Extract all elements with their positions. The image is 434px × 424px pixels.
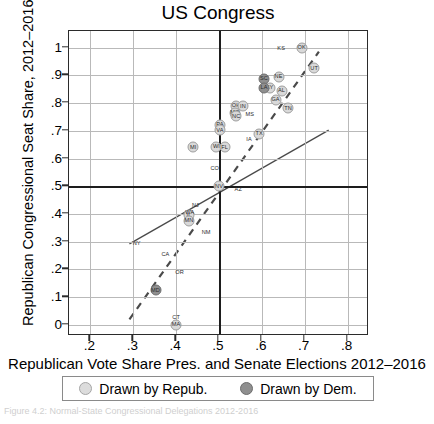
y-tick-label: .2 <box>22 261 62 276</box>
point-label-nm: NM <box>202 229 211 235</box>
y-tick-label: .3 <box>22 233 62 248</box>
gridline-horizontal <box>69 75 367 76</box>
point-label-mi: MI <box>190 144 196 150</box>
gridline-horizontal <box>69 242 367 243</box>
y-tick-mark <box>62 212 68 213</box>
point-label-ne: NE <box>275 73 283 79</box>
point-label-ks: KS <box>277 45 285 51</box>
point-label-tx: TX <box>256 130 263 136</box>
legend-marker-light-circle-icon <box>79 382 92 395</box>
point-label-fl: FL <box>221 144 228 150</box>
gridline-horizontal <box>69 48 367 49</box>
point-label-la: LA <box>260 84 267 90</box>
legend-label-dem: Drawn by Dem. <box>260 381 356 397</box>
point-label-ny: NY <box>133 240 141 246</box>
point-label-nv: NV <box>215 183 223 189</box>
y-tick-mark <box>62 295 68 296</box>
gridline-horizontal <box>69 325 367 326</box>
legend-marker-dark-circle-icon <box>240 382 253 395</box>
y-tick-mark <box>62 129 68 130</box>
figure-caption: Figure 4.2: Normal-State Congressional D… <box>4 406 424 416</box>
gridline-vertical <box>176 31 177 334</box>
y-tick-label: .7 <box>22 122 62 137</box>
x-tick-mark <box>217 335 218 341</box>
point-label-ms: MS <box>246 111 255 117</box>
y-tick-label: .4 <box>22 206 62 221</box>
point-label-ca: CA <box>161 251 169 257</box>
legend-item-repub[interactable]: Drawn by Repub. <box>79 381 207 397</box>
point-label-in: IN <box>240 103 246 109</box>
gridline-vertical <box>90 31 91 334</box>
chart-legend: Drawn by Repub. Drawn by Dem. <box>62 376 374 401</box>
y-tick-mark <box>62 185 68 186</box>
legend-label-repub: Drawn by Repub. <box>99 381 207 397</box>
gridline-horizontal <box>69 159 367 160</box>
y-tick-label: .9 <box>22 67 62 82</box>
x-tick-mark <box>89 335 90 341</box>
x-axis-label: Republican Vote Share Pres. and Senate E… <box>0 355 434 372</box>
y-tick-mark <box>62 323 68 324</box>
y-tick-mark <box>62 157 68 158</box>
point-label-or: OR <box>175 269 184 275</box>
point-label-ia: IA <box>246 136 252 142</box>
x-tick-mark <box>346 335 347 341</box>
point-label-wa: WA <box>185 209 194 215</box>
x-tick-mark <box>303 335 304 341</box>
point-label-tn: TN <box>284 105 292 111</box>
x-tick-mark <box>132 335 133 341</box>
x-tick-mark <box>174 335 175 341</box>
y-tick-mark <box>62 74 68 75</box>
point-label-va: VA <box>216 127 223 133</box>
point-label-md: MD <box>151 287 160 293</box>
y-tick-label: .6 <box>22 150 62 165</box>
point-label-ma: MA <box>172 321 181 327</box>
chart-figure: US Congress Republican Congressional Sea… <box>0 0 434 424</box>
y-tick-label: 0 <box>22 316 62 331</box>
gridline-horizontal <box>69 297 367 298</box>
point-label-ok: OK <box>298 44 306 50</box>
point-label-ga: GA <box>271 96 279 102</box>
y-tick-label: .8 <box>22 95 62 110</box>
y-tick-label: .5 <box>22 178 62 193</box>
point-label-az: AZ <box>235 186 242 192</box>
y-tick-mark <box>62 240 68 241</box>
y-tick-mark <box>62 268 68 269</box>
gridline-horizontal <box>69 214 367 215</box>
legend-item-dem[interactable]: Drawn by Dem. <box>240 381 356 397</box>
point-label-ct: CT <box>172 314 180 320</box>
y-tick-label: .1 <box>22 289 62 304</box>
point-label-ut: UT <box>310 65 318 71</box>
gridline-vertical <box>348 31 349 334</box>
point-label-nc: NC <box>232 113 240 119</box>
point-label-co: CO <box>210 165 219 171</box>
y-tick-label: 1 <box>22 39 62 54</box>
chart-title: US Congress <box>68 2 368 24</box>
gridline-horizontal <box>69 269 367 270</box>
point-label-mn: MN <box>185 217 194 223</box>
gridline-vertical <box>305 31 306 334</box>
point-label-al: AL <box>278 87 285 93</box>
point-label-nj: NJ <box>192 202 199 208</box>
gridline-vertical <box>133 31 134 334</box>
x-tick-mark <box>260 335 261 341</box>
y-tick-mark <box>62 101 68 102</box>
y-tick-mark <box>62 46 68 47</box>
plot-area: OKUTNEKYALGATNOHINMONCPAVATXWIFLMINVILMN… <box>68 30 368 335</box>
point-label-sc: SC <box>260 75 268 81</box>
gridline-horizontal <box>69 103 367 104</box>
